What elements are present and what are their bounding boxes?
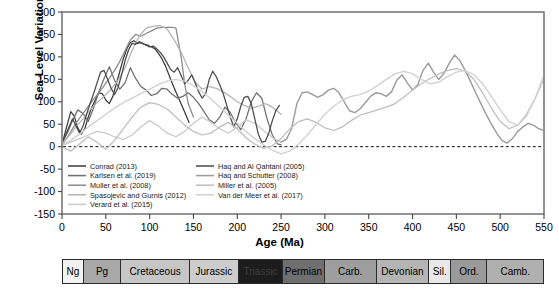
x-tick-label: 250 [272, 221, 290, 233]
y-tick-label: 250 [37, 28, 55, 40]
geologic-period-ng: Ng [63, 260, 84, 283]
legend-label: Verard et al. (2015) [90, 200, 152, 209]
y-tick-label: 300 [37, 6, 55, 18]
sea-level-chart-figure: Sea-Level Variations (m) Age (Ma) 300250… [0, 0, 559, 293]
x-tick-label: 400 [404, 221, 422, 233]
x-tick-label: 150 [185, 221, 203, 233]
geologic-period-permian: Permian [283, 260, 324, 283]
y-tick-label: -50 [40, 163, 55, 175]
legend-label: Karlsen et al. (2019) [90, 171, 156, 180]
y-tick-label: 200 [37, 51, 55, 63]
x-axis-title: Age (Ma) [0, 236, 559, 248]
x-tick-label: 200 [229, 221, 247, 233]
geologic-period-devonian: Devonian [377, 260, 429, 283]
y-tick-label: -100 [34, 185, 55, 197]
geologic-period-ord-: Ord. [451, 260, 487, 283]
legend-label: Haq and Schutter (2008) [218, 171, 298, 180]
legend-label: Van der Meer et al. (2017) [218, 191, 303, 200]
geologic-period-jurassic: Jurassic [190, 260, 239, 283]
y-tick-label: 50 [43, 118, 55, 130]
x-tick-label: 550 [535, 221, 553, 233]
geologic-timescale-bar: NgPgCretaceousJurassicTriassicPermianCar… [62, 259, 544, 284]
legend-label: Miller et al. (2005) [218, 181, 276, 190]
geologic-period-camb-: Camb. [487, 260, 543, 283]
x-tick-label: 350 [360, 221, 378, 233]
legend-label: Spasojevic and Gurnis (2012) [90, 191, 186, 200]
geologic-period-triassic: Triassic [239, 260, 284, 283]
geologic-period-pg: Pg [84, 260, 122, 283]
legend-label: Muller et al. (2008) [90, 181, 151, 190]
plot-area: 300250200150100500-50-100-15005010015020… [0, 0, 559, 235]
x-tick-label: 300 [316, 221, 334, 233]
geologic-period-cretaceous: Cretaceous [121, 260, 190, 283]
legend-label: Conrad (2013) [90, 162, 137, 171]
y-tick-label: -150 [34, 208, 55, 220]
geologic-period-sil-: Sil. [429, 260, 451, 283]
x-tick-label: 50 [100, 221, 112, 233]
x-tick-label: 450 [448, 221, 466, 233]
x-tick-label: 100 [141, 221, 159, 233]
x-tick-label: 0 [59, 221, 65, 233]
y-tick-label: 0 [49, 140, 55, 152]
geologic-period-carb-: Carb. [325, 260, 377, 283]
legend-label: Haq and Al Qahtani (2005) [218, 162, 304, 171]
x-tick-label: 500 [491, 221, 509, 233]
y-tick-label: 100 [37, 95, 55, 107]
y-tick-label: 150 [37, 73, 55, 85]
